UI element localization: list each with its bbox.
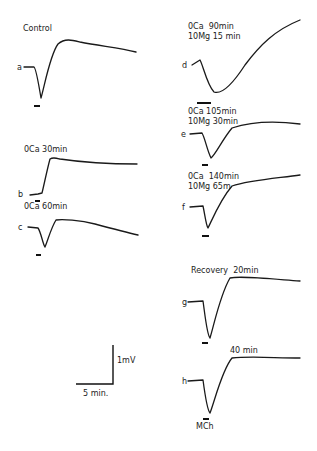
panel-b-title: 0Ca 30min — [24, 145, 67, 154]
panel-h-title: 40 min — [230, 346, 258, 355]
trace-e — [190, 122, 300, 158]
panel-f-letter: f — [182, 203, 185, 212]
scale-bar — [76, 345, 113, 384]
panel-d-letter: d — [182, 61, 187, 70]
panel-e-title: 0Ca 105min — [188, 107, 236, 116]
figure-traces — [0, 0, 317, 451]
panel-c-letter: c — [18, 223, 22, 232]
panel-g-title: Recovery 20min — [191, 266, 258, 275]
panel-f-title: 0Ca 140min — [188, 172, 239, 181]
panel-e-letter: e — [181, 130, 186, 139]
stimulus-label: MCh — [196, 422, 214, 431]
trace-a — [24, 40, 136, 98]
panel-c-title: 0Ca 60min — [24, 202, 67, 211]
panel-a-title: Control — [23, 24, 52, 33]
panel-b-letter: b — [18, 190, 23, 199]
trace-c — [28, 220, 138, 247]
trace-g — [188, 277, 300, 338]
panel-f-subtitle: 10Mg 65m — [188, 182, 231, 191]
panel-a-letter: a — [17, 63, 22, 72]
panel-g-letter: g — [182, 298, 187, 307]
trace-h — [188, 357, 300, 413]
panel-d-title: 0Ca 90min — [188, 22, 234, 31]
scale-voltage-label: 1mV — [117, 356, 135, 365]
scale-time-label: 5 min. — [83, 389, 108, 398]
panel-e-subtitle: 10Mg 30min — [188, 117, 238, 126]
panel-h-letter: h — [182, 377, 187, 386]
trace-b — [30, 158, 137, 195]
panel-d-subtitle: 10Mg 15 min — [188, 32, 241, 41]
